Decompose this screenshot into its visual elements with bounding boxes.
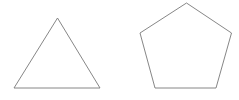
shapes-canvas	[0, 0, 239, 100]
shapes-figure	[0, 0, 239, 100]
